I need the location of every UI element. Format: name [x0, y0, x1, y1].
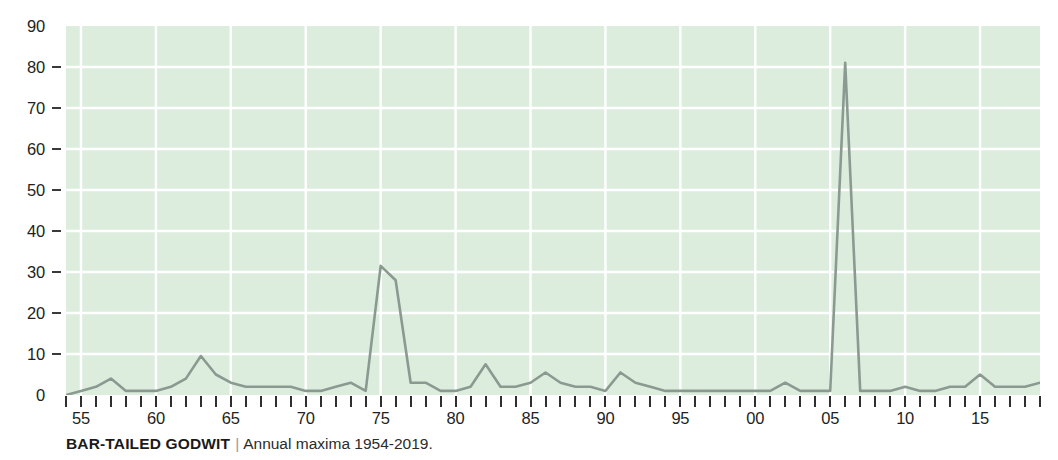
x-axis-tick-mark [874, 396, 876, 407]
x-axis-tick-mark [619, 396, 621, 407]
x-axis-tick-mark [470, 396, 472, 407]
x-axis-tick-mark [290, 396, 292, 407]
x-axis-tick-mark [814, 396, 816, 407]
y-axis-tick-20: 20 [27, 305, 66, 321]
x-axis-tick-mark [979, 396, 981, 407]
x-axis-tick-mark [649, 396, 651, 407]
x-axis-tick-label-80: 80 [447, 409, 465, 427]
x-axis-tick-mark [230, 396, 232, 407]
x-axis-tick-mark [769, 396, 771, 407]
plot-area [66, 26, 1040, 395]
x-axis-tick-mark [904, 396, 906, 407]
x-axis-tick-mark [365, 396, 367, 407]
x-axis-tick-label-55: 55 [72, 409, 90, 427]
x-axis-tick-mark [530, 396, 532, 407]
x-axis-tick-label-85: 85 [522, 409, 540, 427]
x-axis-tick-mark [155, 396, 157, 407]
y-axis-tick-label: 10 [27, 346, 45, 362]
y-axis-tick-80: 80 [27, 59, 66, 75]
x-axis-tick-mark [889, 396, 891, 407]
y-axis-tick-label: 70 [27, 100, 45, 116]
y-axis-tick-mark [52, 230, 61, 232]
caption: BAR-TAILED GODWIT|Annual maxima 1954-201… [66, 434, 433, 454]
x-axis-tick-mark [574, 396, 576, 407]
y-axis-tick-label: 50 [27, 182, 45, 198]
y-axis-tick-10: 10 [27, 346, 66, 362]
y-axis-tick-label: 60 [27, 141, 45, 157]
x-axis-tick-mark [545, 396, 547, 407]
x-axis-tick-mark [260, 396, 262, 407]
x-axis-tick-mark [799, 396, 801, 407]
x-axis-tick-mark [724, 396, 726, 407]
x-axis-tick-label-95: 95 [671, 409, 689, 427]
y-axis-tick-mark [52, 353, 61, 355]
y-axis-tick-mark [52, 148, 61, 150]
x-axis-tick-mark [380, 396, 382, 407]
x-axis-tick-mark [515, 396, 517, 407]
x-axis-tick-mark [110, 396, 112, 407]
x-axis-tick-mark [275, 396, 277, 407]
y-axis-tick-mark [52, 394, 61, 396]
series-line-annual-maxima [66, 26, 1040, 395]
x-axis-tick-mark [245, 396, 247, 407]
x-axis-tick-mark [589, 396, 591, 407]
x-axis-tick-mark [994, 396, 996, 407]
y-axis-tick-label: 90 [27, 18, 45, 34]
x-axis-tick-label-90: 90 [596, 409, 614, 427]
y-axis-tick-40: 40 [27, 223, 66, 239]
x-axis-tick-mark [739, 396, 741, 407]
y-axis-tick-60: 60 [27, 141, 66, 157]
x-axis-tick-mark [1024, 396, 1026, 407]
y-axis-tick-50: 50 [27, 182, 66, 198]
chart-figure: 9080706050403020100 55606570758085909500… [0, 0, 1058, 460]
x-axis-tick-mark [1039, 396, 1041, 407]
x-axis-tick-label-15: 15 [971, 409, 989, 427]
x-axis-tick-mark [185, 396, 187, 407]
x-axis-tick-label-65: 65 [222, 409, 240, 427]
x-axis-tick-label-75: 75 [372, 409, 390, 427]
caption-title: BAR-TAILED GODWIT [66, 435, 230, 452]
x-axis-tick-mark [200, 396, 202, 407]
x-axis-tick-mark [80, 396, 82, 407]
x-axis-tick-mark [320, 396, 322, 407]
x-axis-tick-mark [305, 396, 307, 407]
x-axis-tick-mark [634, 396, 636, 407]
x-axis-tick-mark [679, 396, 681, 407]
y-axis-tick-mark [52, 66, 61, 68]
x-axis-tick-mark [335, 396, 337, 407]
x-axis-tick-mark [350, 396, 352, 407]
x-axis-tick-mark [395, 396, 397, 407]
x-axis-tick-mark [485, 396, 487, 407]
y-axis-tick-mark [52, 25, 61, 27]
x-axis-tick-label-70: 70 [297, 409, 315, 427]
x-axis-tick-mark [859, 396, 861, 407]
x-axis-tick-mark [410, 396, 412, 407]
x-axis-tick-label-10: 10 [896, 409, 914, 427]
x-axis-tick-mark [125, 396, 127, 407]
y-axis-tick-mark [52, 107, 61, 109]
x-axis: 55606570758085909500051015 [66, 396, 1040, 436]
y-axis-tick-label: 0 [36, 387, 45, 403]
y-axis-tick-0: 0 [36, 387, 66, 403]
x-axis-tick-mark [784, 396, 786, 407]
x-axis-tick-mark [440, 396, 442, 407]
x-axis-tick-mark [844, 396, 846, 407]
x-axis-tick-mark [964, 396, 966, 407]
y-axis: 9080706050403020100 [0, 0, 66, 421]
y-axis-tick-mark [52, 189, 61, 191]
x-axis-tick-mark [604, 396, 606, 407]
y-axis-tick-30: 30 [27, 264, 66, 280]
x-axis-tick-label-05: 05 [821, 409, 839, 427]
x-axis-tick-mark [829, 396, 831, 407]
x-axis-tick-label-60: 60 [147, 409, 165, 427]
x-axis-tick-mark [559, 396, 561, 407]
y-axis-tick-70: 70 [27, 100, 66, 116]
x-axis-tick-mark [754, 396, 756, 407]
x-axis-tick-mark [170, 396, 172, 407]
x-axis-tick-mark [934, 396, 936, 407]
y-axis-tick-label: 80 [27, 59, 45, 75]
caption-separator: | [230, 435, 243, 452]
y-axis-tick-label: 20 [27, 305, 45, 321]
y-axis-tick-mark [52, 312, 61, 314]
y-axis-tick-label: 30 [27, 264, 45, 280]
